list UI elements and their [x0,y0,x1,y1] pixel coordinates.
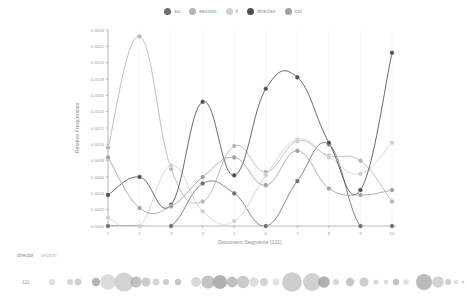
dispersion-bubble [373,279,378,284]
svg-text:0.0024: 0.0024 [91,28,105,33]
data-point [106,224,111,229]
data-point [390,188,395,193]
svg-text:10: 10 [390,231,395,236]
dispersion-bubble [49,279,55,285]
data-point [327,155,332,160]
legend-item-label: cui [295,9,302,14]
data-point [200,100,205,105]
legend-swatch-icon [247,8,254,15]
data-point [169,163,174,168]
svg-text:0.0008: 0.0008 [91,158,105,163]
svg-text:0.0016: 0.0016 [91,93,105,98]
dispersion-bubble [175,279,181,285]
svg-text:8: 8 [328,231,331,236]
dispersion-bubble [213,275,227,289]
dispersion-bubble [141,277,150,286]
data-point [358,188,363,193]
svg-text:7: 7 [296,231,299,236]
data-point [295,75,300,80]
data-point [232,219,237,224]
data-point [137,175,142,180]
data-point [232,173,237,178]
legend-item-li[interactable]: li [226,8,239,15]
y-axis-ticks: 0.00000.00020.00040.00060.00080.00100.00… [91,28,108,229]
data-point [137,34,142,39]
legend-item-label: su [174,9,180,14]
legend-swatch-icon [164,8,171,15]
dispersion-bubble [403,279,409,285]
series-cui[interactable] [108,151,392,214]
axes [108,30,396,226]
series-li[interactable] [108,139,392,230]
svg-text:0.0006: 0.0006 [91,175,105,180]
svg-text:0.0014: 0.0014 [91,109,105,114]
svg-text:6: 6 [265,231,268,236]
dispersion-bubble [393,279,399,285]
dispersion-bubble [249,277,258,286]
dispersion-bubble [75,279,82,286]
dispersion-panel: directorsection 111 [0,250,466,305]
svg-text:1: 1 [107,231,110,236]
dispersion-bubbles[interactable] [0,250,466,305]
y-axis-title: Relative Frequencies [74,102,80,153]
data-point [137,206,142,211]
svg-text:0.0002: 0.0002 [91,207,105,212]
data-point [263,224,268,229]
legend-swatch-icon [226,8,233,15]
data-point [390,199,395,204]
dispersion-bubble [445,279,451,285]
x-axis-ticks: 12345678910 [107,226,395,236]
legend-item-director[interactable]: director [247,8,276,15]
dispersion-bubble [432,276,444,288]
dispersion-bubble [130,276,141,287]
legend-item-section[interactable]: section [189,8,217,15]
series-director[interactable] [108,53,392,208]
dispersion-bubble [92,278,100,286]
data-point [106,216,111,221]
legend-item-su[interactable]: su [164,8,180,15]
data-point [358,171,363,176]
data-point [358,224,363,229]
dispersion-bubble [318,276,330,288]
data-point [263,173,268,178]
data-point [263,183,268,188]
data-point [200,209,205,214]
series-markers-director[interactable] [106,51,395,208]
data-point [169,224,174,229]
data-point [390,224,395,229]
chart-legend: susectionlidirectorcui [0,8,466,15]
svg-text:0.0010: 0.0010 [91,142,105,147]
svg-text:9: 9 [359,231,362,236]
svg-text:3: 3 [170,231,173,236]
line-chart-panel: 0.00000.00020.00040.00060.00080.00100.00… [0,22,466,250]
data-point [200,181,205,186]
data-point [327,186,332,191]
legend-item-cui[interactable]: cui [285,8,302,15]
dispersion-bubble [163,279,169,285]
dispersion-bubble [67,279,73,285]
legend-item-label: li [236,9,239,14]
dispersion-bubble [227,277,238,288]
svg-text:2: 2 [138,231,141,236]
legend-swatch-icon [285,8,292,15]
data-point [295,137,300,142]
x-axis-title: Document Segments (111) [218,239,282,245]
dispersion-bubble [282,272,302,292]
svg-text:0.0004: 0.0004 [91,191,105,196]
data-point [390,51,395,56]
legend-item-label: section [199,9,217,14]
grid-lines [108,30,392,226]
data-point [200,175,205,180]
data-point [169,204,174,209]
data-point [295,149,300,154]
data-point [232,144,237,149]
svg-text:5: 5 [233,231,236,236]
legend-item-label: director [257,9,276,14]
dispersion-bubble [237,276,249,288]
series-section[interactable] [108,36,392,203]
dispersion-bubble [100,274,116,290]
relative-frequencies-chart[interactable]: 0.00000.00020.00040.00060.00080.00100.00… [0,22,466,250]
svg-text:0.0022: 0.0022 [91,44,105,49]
dispersion-bubble [359,277,368,286]
series-markers-section[interactable] [106,34,395,204]
